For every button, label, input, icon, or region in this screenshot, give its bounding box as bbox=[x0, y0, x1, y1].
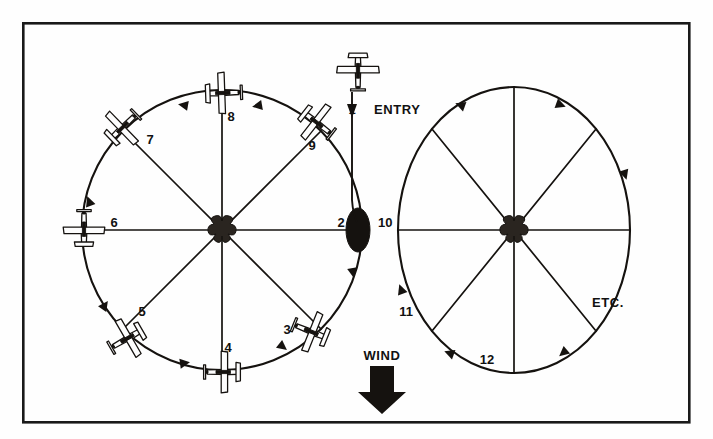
etc-label: ETC. bbox=[592, 295, 624, 310]
position-label-3: 3 bbox=[283, 322, 290, 337]
position-label-7: 7 bbox=[146, 132, 153, 147]
position-label-6: 6 bbox=[110, 215, 117, 230]
position-label-1: 1 bbox=[348, 102, 355, 117]
wind-label: WIND bbox=[363, 348, 400, 363]
right-arrow-ne bbox=[555, 99, 568, 112]
aircraft-position-5 bbox=[100, 312, 153, 366]
aircraft-position-4 bbox=[204, 351, 241, 393]
right-arrow-se bbox=[556, 346, 570, 360]
left-arrow-se bbox=[276, 340, 290, 354]
aircraft-position-8 bbox=[205, 72, 243, 115]
aircraft-position-3 bbox=[285, 305, 335, 357]
right-circle-group bbox=[398, 87, 630, 373]
position-label-10: 10 bbox=[378, 215, 392, 230]
aircraft-position-6 bbox=[63, 210, 105, 247]
position-label-5: 5 bbox=[138, 304, 145, 319]
position-label-2: 2 bbox=[337, 215, 344, 230]
crossing-point-marker bbox=[346, 208, 370, 252]
wind-arrow bbox=[358, 366, 406, 414]
aircraft-entry bbox=[337, 53, 380, 91]
figure-canvas: 1 ENTRY 2 10 3 4 5 6 7 8 9 11 12 ETC. WI… bbox=[0, 0, 713, 439]
left-arrow-nw bbox=[177, 99, 189, 111]
left-arrow-ne bbox=[251, 100, 263, 112]
entry-label: ENTRY bbox=[374, 102, 421, 117]
position-label-11: 11 bbox=[399, 304, 413, 319]
position-label-9: 9 bbox=[308, 138, 315, 153]
position-label-8: 8 bbox=[227, 109, 234, 124]
position-label-4: 4 bbox=[224, 340, 232, 355]
right-circle-hub bbox=[500, 216, 528, 243]
flight-pattern-diagram: 1 ENTRY 2 10 3 4 5 6 7 8 9 11 12 ETC. WI… bbox=[0, 0, 713, 439]
left-circle-hub bbox=[208, 216, 236, 243]
aircraft-position-9 bbox=[290, 96, 345, 151]
position-label-12: 12 bbox=[480, 352, 494, 367]
aircraft-position-7 bbox=[96, 99, 151, 154]
right-arrow-w bbox=[395, 283, 408, 296]
